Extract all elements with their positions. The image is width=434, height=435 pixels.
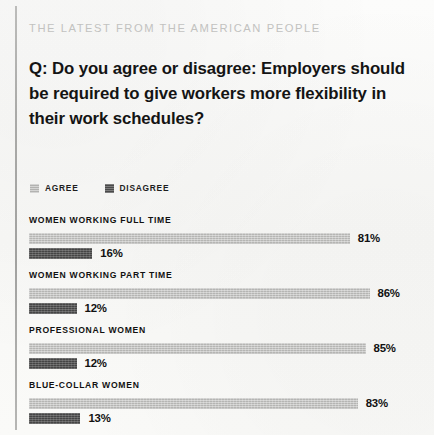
square-swatch-dark-icon (105, 184, 114, 193)
kicker-text: THE LATEST FROM THE AMERICAN PEOPLE (29, 22, 321, 34)
bar-row-agree: 86% (29, 287, 429, 299)
bar-agree (29, 288, 370, 299)
bar-agree (29, 233, 350, 244)
bar-value-agree: 81% (358, 232, 380, 244)
bar-disagree (29, 413, 80, 424)
bar-disagree (29, 303, 77, 314)
bar-row-agree: 85% (29, 342, 429, 354)
bar-group: BLUE-COLLAR WOMEN 83% 13% (29, 378, 429, 433)
bar-value-agree: 85% (374, 342, 396, 354)
bar-chart-groups: WOMEN WORKING FULL TIME 81% 16% WOMEN WO… (29, 213, 429, 433)
bar-group-label: BLUE-COLLAR WOMEN (29, 380, 140, 390)
bar-value-disagree: 16% (100, 247, 122, 259)
bar-value-agree: 86% (378, 287, 400, 299)
legend-label-agree: AGREE (45, 183, 79, 193)
bar-disagree (29, 358, 77, 369)
bar-row-agree: 81% (29, 232, 429, 244)
square-swatch-light-icon (30, 184, 39, 193)
bar-agree (29, 398, 358, 409)
infographic-content: THE LATEST FROM THE AMERICAN PEOPLE Q: D… (29, 0, 429, 435)
bar-row-disagree: 16% (29, 247, 429, 259)
bar-group: WOMEN WORKING PART TIME 86% 12% (29, 268, 429, 323)
bar-group-label: PROFESSIONAL WOMEN (29, 325, 146, 335)
bar-group-label: WOMEN WORKING FULL TIME (29, 215, 171, 225)
bar-row-disagree: 12% (29, 357, 429, 369)
page-title: Q: Do you agree or disagree: Employers s… (29, 56, 421, 131)
left-vertical-rule (15, 6, 17, 430)
chart-legend: AGREE DISAGREE (30, 183, 169, 193)
bar-disagree (29, 248, 92, 259)
bar-row-disagree: 12% (29, 302, 429, 314)
bar-group-label: WOMEN WORKING PART TIME (29, 270, 172, 280)
legend-item-disagree: DISAGREE (105, 183, 170, 193)
bar-group: PROFESSIONAL WOMEN 85% 12% (29, 323, 429, 378)
bar-value-disagree: 13% (88, 412, 110, 424)
bar-row-disagree: 13% (29, 412, 429, 424)
bar-value-disagree: 12% (85, 302, 107, 314)
bar-value-agree: 83% (366, 397, 388, 409)
bar-agree (29, 343, 366, 354)
bar-group: WOMEN WORKING FULL TIME 81% 16% (29, 213, 429, 268)
legend-label-disagree: DISAGREE (120, 183, 170, 193)
bar-row-agree: 83% (29, 397, 429, 409)
legend-item-agree: AGREE (30, 183, 79, 193)
bar-value-disagree: 12% (85, 357, 107, 369)
